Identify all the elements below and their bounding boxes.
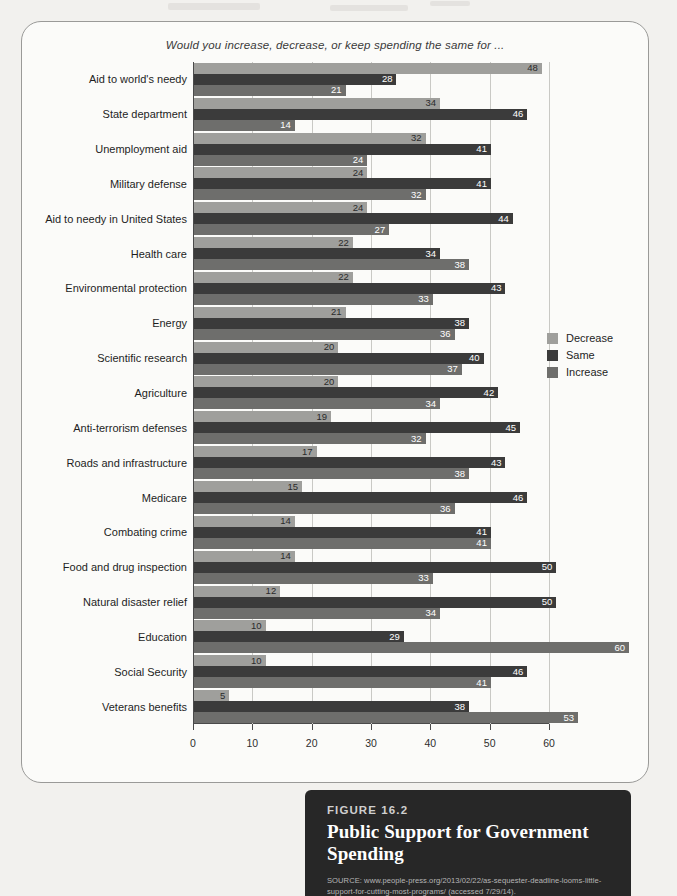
bar-increase: 33: [194, 294, 433, 305]
bar-value-label: 32: [411, 190, 422, 200]
bar-row: Food and drug inspection145033: [193, 550, 629, 585]
bar-increase: 34: [194, 608, 440, 619]
bar-decrease: 14: [194, 516, 295, 527]
bar-increase: 41: [194, 538, 491, 549]
bar-value-label: 21: [331, 86, 342, 96]
category-label: Anti-terrorism defenses: [73, 422, 187, 434]
bar-value-label: 34: [425, 249, 436, 259]
bar-value-label: 10: [251, 656, 262, 666]
bar-value-label: 36: [440, 504, 451, 514]
category-label: Unemployment aid: [95, 143, 187, 155]
bar-row: Veterans benefits53853: [193, 689, 629, 724]
bar-value-label: 24: [353, 168, 364, 178]
bar-increase: 38: [194, 259, 469, 270]
bar-value-label: 46: [513, 109, 524, 119]
bar-value-label: 50: [542, 597, 553, 607]
x-tick-label: 50: [484, 737, 496, 749]
figure-number: FIGURE 16.2: [327, 804, 611, 816]
legend-label-increase: Increase: [566, 366, 608, 378]
bar-decrease: 17: [194, 446, 317, 457]
bar-value-label: 41: [476, 179, 487, 189]
category-label: Scientific research: [97, 352, 187, 364]
bar-row: Unemployment aid324124: [193, 132, 629, 167]
category-label: Medicare: [142, 492, 187, 504]
bar-increase: 60: [194, 642, 629, 653]
bar-increase: 32: [194, 189, 426, 200]
bar-value-label: 41: [476, 678, 487, 688]
bar-increase: 24: [194, 155, 367, 166]
category-label: Environmental protection: [65, 282, 187, 294]
bar-decrease: 48: [194, 63, 542, 74]
bar-value-label: 14: [280, 517, 291, 527]
bar-increase: 41: [194, 677, 491, 688]
bar-row: Health care223438: [193, 236, 629, 271]
bar-value-label: 17: [302, 447, 313, 457]
bar-value-label: 22: [338, 238, 349, 248]
bar-same: 44: [194, 213, 513, 224]
bar-value-label: 48: [527, 64, 538, 74]
legend-item-same: Same: [547, 347, 613, 363]
x-tick: [490, 724, 491, 730]
x-tick-label: 20: [306, 737, 318, 749]
category-label: Education: [138, 631, 187, 643]
bar-row: Aid to needy in United States244427: [193, 201, 629, 236]
bar-same: 29: [194, 631, 404, 642]
category-label: Energy: [152, 317, 187, 329]
bar-row: Environmental protection224333: [193, 271, 629, 306]
bar-increase: 53: [194, 712, 578, 723]
category-label: Combating crime: [104, 526, 187, 538]
x-tick: [312, 724, 313, 730]
legend-swatch-increase: [547, 367, 558, 378]
bar-value-label: 40: [469, 353, 480, 363]
bar-value-label: 41: [476, 144, 487, 154]
category-label: Food and drug inspection: [63, 561, 187, 573]
bar-value-label: 43: [491, 284, 502, 294]
bar-increase: 36: [194, 329, 455, 340]
bar-increase: 27: [194, 224, 389, 235]
bar-value-label: 38: [455, 260, 466, 270]
legend-label-same: Same: [566, 349, 595, 361]
bar-row: Social Security104641: [193, 654, 629, 689]
bar-row: Military defense244132: [193, 167, 629, 202]
bar-increase: 34: [194, 398, 440, 409]
bar-value-label: 5: [220, 691, 225, 701]
bar-value-label: 32: [411, 133, 422, 143]
bar-same: 50: [194, 597, 556, 608]
bar-value-label: 20: [324, 342, 335, 352]
chart-legend: Decrease Same Increase: [547, 330, 613, 381]
bar-value-label: 28: [382, 75, 393, 85]
category-label: Aid to world's needy: [89, 73, 187, 85]
bar-increase: 21: [194, 85, 346, 96]
bar-row: Anti-terrorism defenses194532: [193, 410, 629, 445]
category-label: State department: [103, 108, 187, 120]
bar-increase: 37: [194, 364, 462, 375]
bar-row: Medicare154636: [193, 480, 629, 515]
figure-caption-card: FIGURE 16.2 Public Support for Governmen…: [305, 790, 631, 896]
bar-decrease: 22: [194, 237, 353, 248]
bar-same: 41: [194, 178, 491, 189]
bar-row: Combating crime144141: [193, 515, 629, 550]
legend-item-increase: Increase: [547, 364, 613, 380]
bar-decrease: 20: [194, 376, 338, 387]
bar-value-label: 45: [505, 423, 516, 433]
bar-increase: 38: [194, 468, 469, 479]
bar-decrease: 10: [194, 620, 266, 631]
bar-value-label: 21: [331, 308, 342, 318]
bar-value-label: 46: [513, 667, 524, 677]
bar-value-label: 42: [484, 388, 495, 398]
bar-value-label: 15: [287, 482, 298, 492]
bar-same: 45: [194, 422, 520, 433]
bar-value-label: 43: [491, 458, 502, 468]
bar-value-label: 32: [411, 434, 422, 444]
bar-row: Roads and infrastructure174338: [193, 445, 629, 480]
bar-decrease: 20: [194, 342, 338, 353]
bar-value-label: 12: [266, 586, 277, 596]
bar-decrease: 22: [194, 272, 353, 283]
x-tick-label: 0: [190, 737, 196, 749]
bar-decrease: 19: [194, 411, 331, 422]
figure-title: Public Support for Government Spending: [327, 821, 611, 865]
bar-value-label: 29: [389, 632, 400, 642]
x-tick-label: 10: [246, 737, 258, 749]
category-label: Military defense: [110, 178, 187, 190]
paper-artifact: [168, 3, 260, 10]
